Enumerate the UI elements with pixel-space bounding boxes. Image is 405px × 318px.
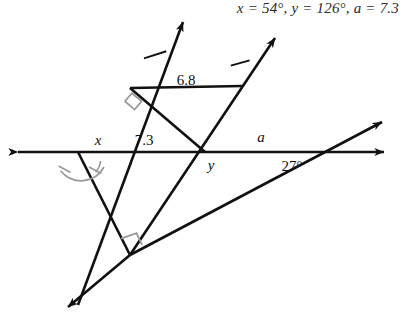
label-angle-y: y bbox=[208, 157, 215, 174]
parallel-tick-left-ray bbox=[144, 51, 166, 58]
bottom-down-left-ray bbox=[68, 255, 130, 307]
twentyseven-degree-ray bbox=[130, 122, 382, 255]
label-segment-7point3: 7.3 bbox=[135, 132, 154, 149]
diagram-lines bbox=[18, 22, 384, 307]
label-angle-27: 27° bbox=[282, 158, 303, 175]
geometry-diagram bbox=[0, 0, 405, 318]
label-segment-6point8: 6.8 bbox=[177, 72, 196, 89]
figure-page: x = 54°, y = 126°, a = 7.3 bbox=[0, 0, 405, 318]
label-segment-a: a bbox=[257, 129, 265, 146]
congruent-angle-arcs bbox=[59, 161, 104, 181]
left-parallel-ray bbox=[78, 22, 183, 305]
parallel-tick-marks bbox=[144, 51, 250, 65]
label-angle-x: x bbox=[95, 132, 102, 149]
arc-tick-right bbox=[89, 167, 101, 173]
parallel-tick-right-ray bbox=[231, 60, 250, 65]
